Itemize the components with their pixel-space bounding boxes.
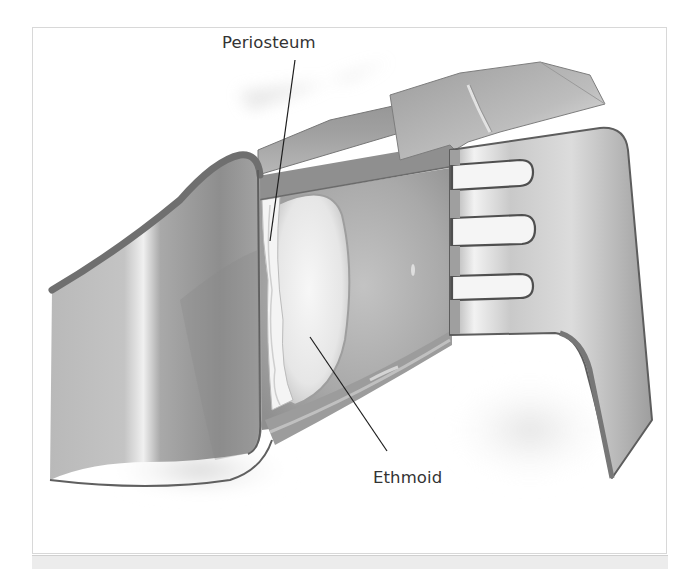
ethmoid-label: Ethmoid [373,470,442,487]
periosteum-label: Periosteum [222,35,316,52]
left-retractor-blade [50,155,272,486]
